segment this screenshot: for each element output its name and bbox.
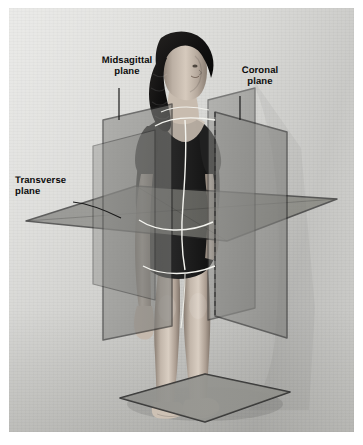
photograph: Midsagittal plane Coronal plane Transver… bbox=[9, 8, 354, 432]
label-transverse-plane: Transverse plane bbox=[15, 176, 101, 197]
label-midsagittal-plane: Midsagittal plane bbox=[81, 56, 173, 77]
anatomical-planes-figure: Midsagittal plane Coronal plane Transver… bbox=[0, 0, 363, 445]
label-coronal-plane: Coronal plane bbox=[219, 66, 301, 87]
planes-overlay bbox=[9, 8, 354, 432]
